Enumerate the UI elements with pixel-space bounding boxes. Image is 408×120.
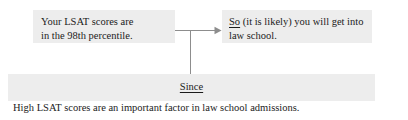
warrant-connective-label: Since [8, 80, 375, 93]
conclusion-box: So (it is likely) you will get into law … [222, 10, 372, 43]
warrant-connective: Since [180, 81, 203, 92]
conclusion-body: (it is likely) you will get into law sch… [229, 16, 363, 41]
warrant-statement-text: High LSAT scores are an important factor… [13, 101, 299, 115]
argument-diagram: Your LSAT scores are in the 98th percent… [0, 0, 408, 120]
conclusion-connective: So [229, 16, 240, 27]
warrant-band: Since [8, 74, 375, 101]
premise-box: Your LSAT scores are in the 98th percent… [33, 10, 175, 43]
conclusion-text: So (it is likely) you will get into law … [229, 15, 365, 42]
connector-horizontal-line [175, 30, 217, 31]
connector-vertical-line [190, 31, 191, 75]
premise-text: Your LSAT scores are in the 98th percent… [41, 15, 167, 42]
